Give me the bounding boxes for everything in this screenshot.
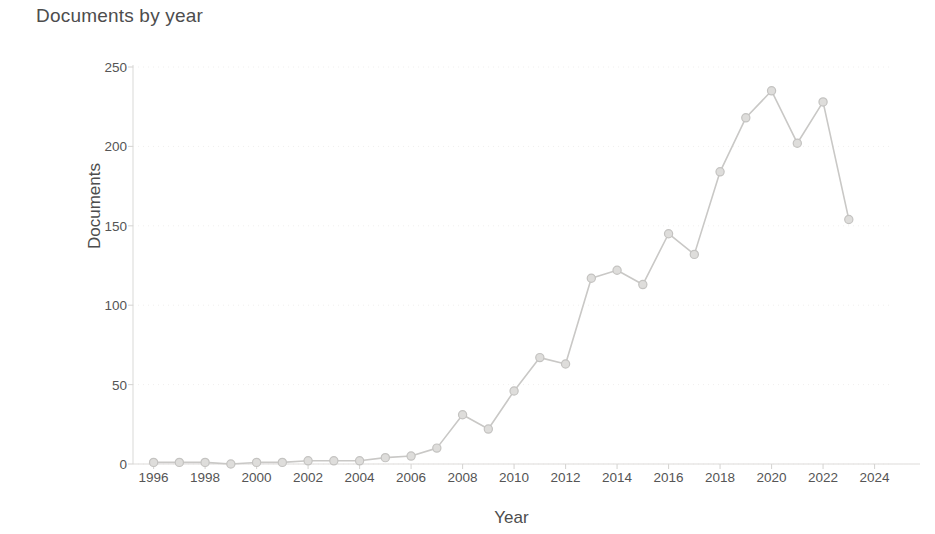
data-point [536, 354, 544, 362]
data-point [407, 452, 415, 460]
data-point [742, 114, 750, 122]
data-point [227, 460, 235, 468]
data-point [510, 387, 518, 395]
data-point [845, 215, 853, 223]
data-point [458, 411, 466, 419]
data-point [278, 458, 286, 466]
data-point [433, 444, 441, 452]
data-point [639, 280, 647, 288]
grid-lines [133, 67, 890, 464]
data-point [819, 98, 827, 106]
data-point [201, 458, 209, 466]
data-point [484, 425, 492, 433]
data-point [793, 139, 801, 147]
data-point [304, 457, 312, 465]
axis-lines [133, 65, 920, 464]
data-point [150, 458, 158, 466]
data-point [664, 230, 672, 238]
data-point [330, 457, 338, 465]
plot-canvas [0, 0, 935, 534]
data-point [355, 457, 363, 465]
data-point [381, 454, 389, 462]
data-point [561, 360, 569, 368]
data-point [252, 458, 260, 466]
data-point [716, 168, 724, 176]
data-point [690, 250, 698, 258]
chart-figure: Documents Year 050100150200250 199619982… [0, 0, 935, 534]
data-point [587, 274, 595, 282]
data-point [613, 266, 621, 274]
series-line-documents [154, 91, 849, 464]
data-point [767, 87, 775, 95]
data-point [175, 458, 183, 466]
